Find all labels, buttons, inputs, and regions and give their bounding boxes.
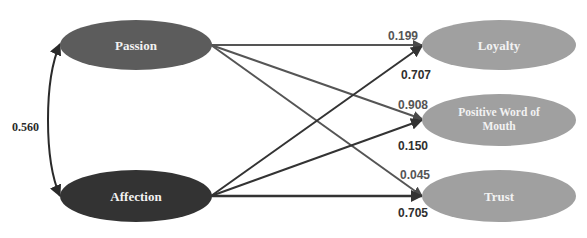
coef-affection-pwom: 0.150 [398,139,428,153]
coef-passion-trust: 0.045 [400,168,430,182]
path-affection-pwom [211,120,422,196]
node-passion: Passion [60,20,212,70]
correlation-value: 0.560 [12,120,39,134]
path-diagram: 0.560 Passion Affection Loyalty Positive… [0,0,587,238]
node-affection-label: Affection [110,189,162,204]
coef-passion-pwom: 0.908 [398,98,428,112]
node-trust: Trust [422,170,576,222]
coef-passion-loyalty: 0.199 [388,29,418,43]
node-positive-word-of-mouth: Positive Word of Mouth [422,94,576,146]
node-affection: Affection [60,170,212,222]
node-loyalty-label: Loyalty [478,38,521,53]
node-loyalty: Loyalty [422,20,576,70]
node-pwom-label-line2: Mouth [482,120,516,132]
path-passion-pwom [211,45,422,119]
node-pwom-label-line1: Positive Word of [458,106,540,118]
correlation-arrow [48,44,60,196]
node-trust-label: Trust [484,189,515,204]
coef-affection-loyalty: 0.707 [401,68,431,82]
coef-affection-trust: 0.705 [398,206,428,220]
node-passion-label: Passion [115,38,158,53]
